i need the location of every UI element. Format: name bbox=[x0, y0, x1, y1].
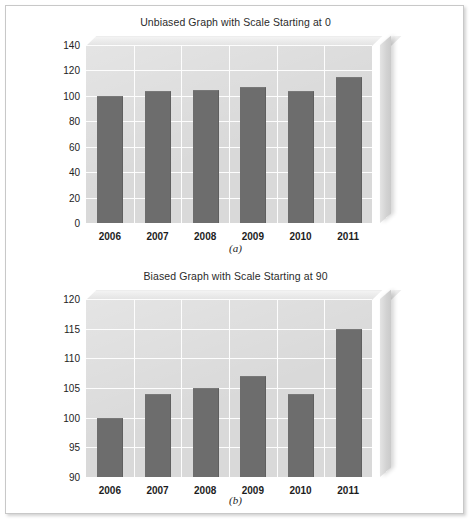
bar bbox=[288, 91, 314, 223]
bar-chart-b: 9095100105110115120200620072008200920102… bbox=[86, 290, 391, 480]
chart-wall-right bbox=[380, 290, 391, 477]
bar-chart-a: 0204060801001201402006200720082009201020… bbox=[86, 36, 391, 226]
figure-b: Biased Graph with Scale Starting at 90 9… bbox=[6, 264, 465, 514]
y-axis-tick-label: 140 bbox=[63, 40, 80, 51]
chart-title-a: Unbiased Graph with Scale Starting at 0 bbox=[6, 16, 465, 28]
gridline-vertical bbox=[134, 45, 135, 223]
y-axis-tick-label: 20 bbox=[69, 192, 80, 203]
gridline-vertical bbox=[324, 299, 325, 477]
plot-area-b bbox=[86, 299, 372, 477]
y-axis-tick-label: 100 bbox=[63, 90, 80, 101]
gridline-vertical bbox=[277, 45, 278, 223]
y-axis-tick-label: 105 bbox=[63, 383, 80, 394]
figure-caption-a: (a) bbox=[6, 242, 465, 254]
plot-area-a bbox=[86, 45, 372, 223]
page-canvas: Unbiased Graph with Scale Starting at 0 … bbox=[0, 0, 473, 530]
x-axis-tick-label: 2010 bbox=[289, 231, 311, 242]
y-axis-tick-label: 40 bbox=[69, 167, 80, 178]
bar bbox=[336, 77, 362, 223]
figure-frame: Unbiased Graph with Scale Starting at 0 … bbox=[5, 5, 464, 514]
bar bbox=[240, 376, 266, 477]
x-axis-tick-label: 2011 bbox=[337, 231, 359, 242]
y-axis-tick-label: 90 bbox=[69, 472, 80, 483]
chart-wall-right bbox=[380, 36, 391, 223]
y-axis-tick-label: 0 bbox=[74, 218, 80, 229]
gridline-vertical bbox=[181, 45, 182, 223]
x-axis-tick-label: 2006 bbox=[99, 231, 121, 242]
y-axis-tick-label: 110 bbox=[64, 353, 80, 364]
y-axis-tick-label: 80 bbox=[69, 116, 80, 127]
chart-title-b: Biased Graph with Scale Starting at 90 bbox=[6, 270, 465, 282]
y-axis-tick-label: 95 bbox=[69, 442, 80, 453]
bar bbox=[97, 96, 123, 223]
bar bbox=[240, 87, 266, 223]
y-axis-tick-label: 100 bbox=[63, 412, 80, 423]
y-axis-tick-label: 120 bbox=[63, 65, 80, 76]
gridline-vertical bbox=[181, 299, 182, 477]
bar bbox=[145, 394, 171, 477]
y-axis-tick-label: 120 bbox=[63, 294, 80, 305]
gridline-vertical bbox=[134, 299, 135, 477]
gridline-vertical bbox=[229, 45, 230, 223]
figure-a: Unbiased Graph with Scale Starting at 0 … bbox=[6, 10, 465, 262]
figure-caption-b: (b) bbox=[6, 494, 465, 506]
bar bbox=[193, 90, 219, 224]
gridline-vertical bbox=[324, 45, 325, 223]
bar bbox=[97, 418, 123, 477]
bar bbox=[336, 329, 362, 477]
y-axis-tick-label: 60 bbox=[69, 141, 80, 152]
x-axis-tick-label: 2009 bbox=[242, 231, 264, 242]
bar bbox=[193, 388, 219, 477]
x-axis-tick-label: 2007 bbox=[146, 231, 168, 242]
bar bbox=[288, 394, 314, 477]
x-axis-tick-label: 2008 bbox=[194, 231, 216, 242]
gridline-vertical bbox=[277, 299, 278, 477]
y-axis-tick-label: 115 bbox=[64, 323, 80, 334]
gridline-vertical bbox=[229, 299, 230, 477]
bar bbox=[145, 91, 171, 223]
